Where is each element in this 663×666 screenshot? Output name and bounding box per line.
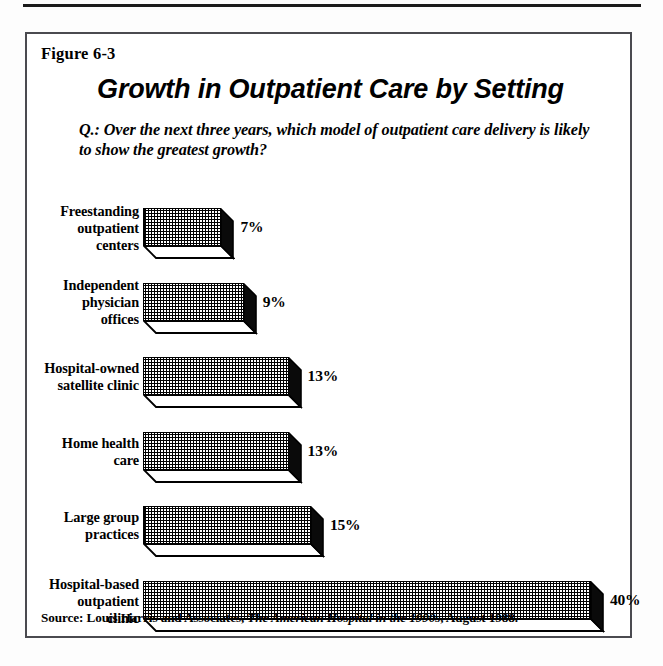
bar-category-label-line: satellite clinic: [19, 377, 139, 394]
bar-category-label-line: Large group: [19, 509, 139, 526]
bar-row: Hospital-ownedsatellite clinic13%: [27, 357, 634, 407]
bar-category-label-line: Home health: [19, 435, 139, 452]
source-prefix: Source: Louis Harris and Associates,: [41, 610, 244, 625]
bar-bottom-face: [143, 543, 325, 558]
bar-side-face: [310, 506, 325, 558]
bar-row: Independentphysicianoffices9%: [27, 283, 634, 333]
figure-panel: Figure 6-3 Growth in Outpatient Care by …: [25, 32, 632, 638]
bar-category-label-line: care: [19, 452, 139, 469]
bar-category-label-line: Independent: [19, 277, 139, 294]
page-top-rule: [23, 4, 641, 7]
source-note: Source: Louis Harris and Associates, The…: [41, 610, 518, 626]
bar-value-label: 13%: [308, 442, 338, 460]
bar-category-label-line: outpatient: [19, 593, 139, 610]
bar-front-face: [143, 506, 311, 544]
bar-category-label-line: Hospital-based: [19, 576, 139, 593]
bar-category-label-line: Freestanding: [19, 203, 139, 220]
bar-category-label: Independentphysicianoffices: [19, 277, 139, 328]
bar-value-label: 40%: [610, 591, 640, 609]
bar-category-label-line: offices: [19, 311, 139, 328]
source-suffix: , August 1988.: [440, 610, 518, 625]
bar-value-label: 7%: [240, 218, 263, 236]
bar-3d: [143, 283, 256, 333]
bar-side-face: [243, 283, 258, 335]
bar-chart-plot-area: Freestandingoutpatientcenters7%Independe…: [27, 174, 634, 604]
bar-front-face: [143, 432, 289, 470]
bar-bottom-face: [143, 469, 303, 484]
bar-side-face: [590, 581, 605, 633]
source-work-title: The American Hospital in the 1990s: [247, 610, 440, 625]
bar-front-face: [143, 208, 221, 246]
bar-category-label-line: Hospital-owned: [19, 360, 139, 377]
bar-front-face: [143, 357, 289, 395]
bar-bottom-face: [143, 320, 258, 335]
bar-category-label-line: outpatient: [19, 220, 139, 237]
bar-category-label-line: physician: [19, 294, 139, 311]
bar-3d: [143, 357, 301, 407]
bar-bottom-face: [143, 394, 303, 409]
bar-front-face: [143, 283, 244, 321]
bar-row: Home healthcare13%: [27, 432, 634, 482]
bar-category-label-line: centers: [19, 237, 139, 254]
bar-value-label: 13%: [308, 367, 338, 385]
bar-row: Large grouppractices15%: [27, 506, 634, 556]
bar-side-face: [220, 208, 235, 260]
bar-category-label: Large grouppractices: [19, 509, 139, 543]
bar-row: Freestandingoutpatientcenters7%: [27, 208, 634, 258]
bar-side-face: [288, 432, 303, 484]
bar-category-label: Hospital-ownedsatellite clinic: [19, 360, 139, 394]
bar-3d: [143, 506, 323, 556]
bar-side-face: [288, 357, 303, 409]
bar-value-label: 15%: [330, 516, 360, 534]
chart-title: Growth in Outpatient Care by Setting: [27, 74, 634, 105]
chart-question-text: Q.: Over the next three years, which mod…: [79, 121, 599, 161]
bar-category-label: Home healthcare: [19, 435, 139, 469]
bar-3d: [143, 432, 301, 482]
bar-value-label: 9%: [263, 293, 286, 311]
figure-number-label: Figure 6-3: [41, 44, 116, 64]
bar-category-label-line: practices: [19, 526, 139, 543]
bar-3d: [143, 208, 233, 258]
bar-category-label: Freestandingoutpatientcenters: [19, 203, 139, 254]
